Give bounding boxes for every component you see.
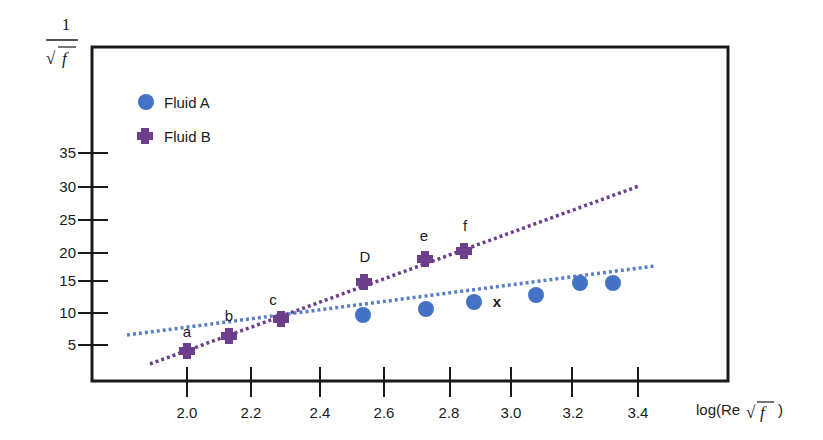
x-tick-label: 3.4: [628, 404, 649, 421]
x-axis-title-sqrt: √: [746, 403, 756, 422]
point-label-d: D: [360, 248, 371, 265]
fluid-a-marker: [355, 307, 371, 323]
legend-fluid-a-marker: [138, 94, 154, 110]
fluid-b-marker-b: [221, 328, 237, 344]
x-axis-title-var: f: [760, 403, 767, 422]
x-tick-label: 2.0: [177, 404, 198, 421]
y-tick-label: 30: [59, 178, 76, 195]
x-tick-label: 2.8: [439, 404, 460, 421]
legend: Fluid A Fluid B: [137, 94, 211, 145]
y-tick-label: 10: [59, 304, 76, 321]
fluid-a-marker: [572, 275, 588, 291]
y-tick-label: 35: [59, 144, 76, 161]
fluid-a-marker: [605, 275, 621, 291]
x-tick-label: 2.6: [374, 404, 395, 421]
point-label-c: c: [269, 291, 277, 308]
fluid-b-marker-a: [179, 343, 195, 359]
y-tick-label: 15: [59, 272, 76, 289]
fluid-b-marker-d: [356, 274, 372, 290]
x-tick-label: 2.2: [241, 404, 262, 421]
fluid-a-marker: [466, 294, 482, 310]
legend-fluid-a-label: Fluid A: [164, 94, 210, 111]
fluid-b-marker-e: [417, 251, 433, 267]
point-label-f: f: [463, 217, 468, 234]
x-axis-title: log(Re √ f ): [696, 401, 783, 422]
chart-canvas: 1 √ f 35 30 25 20 15 10 5 2.0 2.2 2.4 2.…: [0, 0, 823, 440]
point-label-b: b: [225, 307, 233, 324]
legend-fluid-b-marker: [137, 128, 153, 144]
fluid-a-marker: [418, 301, 434, 317]
cross-mark-label: x: [493, 293, 502, 310]
x-tick-label: 2.4: [310, 404, 331, 421]
x-axis-ticks: 2.0 2.2 2.4 2.6 2.8 3.0 3.2 3.4: [177, 367, 649, 421]
x-tick-label: 3.0: [501, 404, 522, 421]
x-tick-label: 3.2: [563, 404, 584, 421]
y-axis-title-sqrt: √: [46, 49, 56, 68]
x-axis-title-suffix: ): [778, 401, 783, 418]
y-axis-title-numerator: 1: [62, 15, 71, 34]
y-axis-title-var: f: [62, 49, 69, 68]
legend-fluid-b-label: Fluid B: [164, 128, 211, 145]
y-axis-ticks: 35 30 25 20 15 10 5: [59, 144, 108, 353]
fluid-b-marker-f: [456, 243, 472, 259]
y-axis-title: 1 √ f: [46, 15, 78, 68]
point-label-e: e: [420, 227, 428, 244]
y-tick-label: 25: [59, 211, 76, 228]
point-label-a: a: [183, 323, 192, 340]
y-tick-label: 5: [68, 336, 76, 353]
fluid-a-marker: [528, 287, 544, 303]
x-axis-title-prefix: log(Re: [696, 401, 740, 418]
y-tick-label: 20: [59, 244, 76, 261]
